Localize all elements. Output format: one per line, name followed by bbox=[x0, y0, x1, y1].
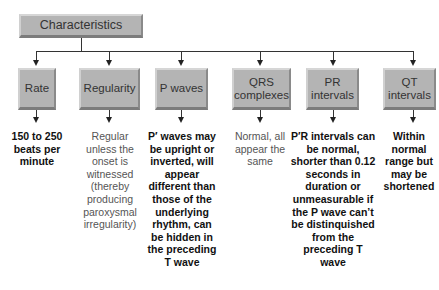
node-regularity: Regularity bbox=[79, 68, 140, 110]
desc-regularity: Regular unless the onset is witnessed (t… bbox=[76, 130, 144, 231]
node-qrs-complexes: QRS complexes bbox=[232, 68, 291, 110]
arrow-down-icon bbox=[33, 117, 39, 123]
arrow-down-icon bbox=[178, 117, 184, 123]
node-label: QRS complexes bbox=[234, 76, 289, 102]
desc-qrs-complexes: Normal, all appear the same bbox=[228, 130, 292, 168]
desc-p-waves: P′ waves may be upright or inverted, wil… bbox=[146, 130, 218, 269]
node-rate: Rate bbox=[18, 68, 56, 110]
arrow-down-icon bbox=[257, 60, 263, 66]
root-node-characteristics: Characteristics bbox=[19, 14, 143, 38]
root-connector bbox=[81, 38, 82, 51]
arrow-down-icon bbox=[178, 60, 184, 66]
desc-pr-intervals: P′R intervals can be normal, shorter tha… bbox=[290, 130, 376, 269]
node-label: PR intervals bbox=[308, 76, 357, 102]
arrow-down-icon bbox=[410, 60, 416, 66]
arrow-down-icon bbox=[106, 60, 112, 66]
arrow-down-icon bbox=[330, 60, 336, 66]
root-label: Characteristics bbox=[40, 19, 123, 32]
node-qt-intervals: QT intervals bbox=[383, 68, 436, 110]
node-label: Rate bbox=[25, 82, 49, 95]
horizontal-connector bbox=[36, 51, 414, 52]
arrow-down-icon bbox=[33, 60, 39, 66]
desc-qt-intervals: Within normal range but may be shortened bbox=[378, 130, 439, 193]
node-label: Regularity bbox=[84, 82, 136, 95]
node-label: QT intervals bbox=[385, 76, 434, 102]
node-label: P waves bbox=[160, 82, 203, 95]
arrow-down-icon bbox=[330, 117, 336, 123]
node-p-waves: P waves bbox=[155, 68, 208, 110]
arrow-down-icon bbox=[410, 117, 416, 123]
arrow-down-icon bbox=[106, 117, 112, 123]
arrow-down-icon bbox=[257, 117, 263, 123]
node-pr-intervals: PR intervals bbox=[306, 68, 359, 110]
desc-rate: 150 to 250 beats per minute bbox=[6, 130, 68, 168]
